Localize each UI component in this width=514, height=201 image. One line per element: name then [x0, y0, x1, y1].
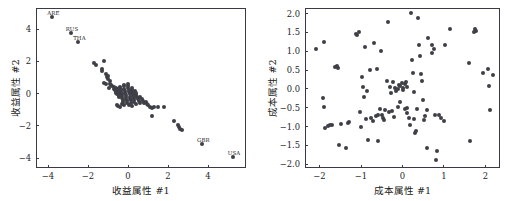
y-tick-mark — [36, 158, 39, 159]
data-point — [411, 71, 415, 75]
data-point — [339, 122, 343, 126]
data-point — [382, 118, 386, 122]
data-point — [386, 20, 390, 24]
x-tick-label: 1 — [441, 172, 446, 180]
x-tick-label: 0 — [400, 172, 405, 180]
x-tick-label: 0 — [125, 172, 130, 180]
data-point — [371, 119, 375, 123]
data-point — [474, 29, 478, 33]
data-point — [107, 86, 111, 90]
x-tick-mark — [208, 165, 209, 168]
x-tick-mark — [88, 165, 89, 168]
x-tick-label: −2 — [313, 172, 325, 180]
point-annotation: USA — [228, 151, 240, 156]
y-tick-label: 0.0 — [257, 85, 300, 93]
y-tick-label: −4 — [0, 154, 31, 162]
data-point — [376, 139, 380, 143]
data-point — [405, 85, 409, 89]
x-tick-label: 4 — [205, 172, 210, 180]
y-tick-mark — [305, 70, 308, 71]
y-tick-label: 4 — [0, 25, 31, 33]
x-tick-mark — [48, 165, 49, 168]
data-point — [468, 139, 472, 143]
y-tick-label: −1.0 — [257, 122, 300, 130]
y-tick-label: −0.5 — [257, 104, 300, 112]
data-point — [385, 79, 389, 83]
x-tick-mark — [485, 165, 486, 168]
data-point — [486, 67, 490, 71]
data-point — [403, 107, 407, 111]
x-tick-mark — [443, 165, 444, 168]
data-point — [364, 117, 368, 121]
y-tick-label: 0.5 — [257, 66, 300, 74]
chart-panel-left: ARERUSTHAGBRUSA 收益属性 #1 收益属性 #2 −4−2024−… — [0, 0, 257, 201]
y-tick-label: −2 — [0, 122, 31, 130]
y-tick-label: 2.0 — [257, 9, 300, 17]
chart-panel-right: 成本属性 #1 成本属性 #2 −2−1012−2.0−1.5−1.0−0.50… — [257, 0, 514, 201]
data-point — [430, 43, 434, 47]
data-point — [422, 118, 426, 122]
x-tick-label: −1 — [355, 172, 367, 180]
data-point — [417, 43, 421, 47]
data-point — [360, 75, 364, 79]
data-point — [122, 103, 126, 107]
y-tick-mark — [305, 164, 308, 165]
y-tick-label: 0 — [0, 89, 31, 97]
data-point — [94, 63, 98, 67]
point-annotation: RUS — [66, 26, 79, 31]
x-tick-mark — [402, 165, 403, 168]
data-point — [425, 108, 429, 112]
data-point — [418, 54, 422, 58]
data-point — [180, 128, 184, 132]
data-point — [378, 107, 382, 111]
point-annotation: THA — [73, 35, 86, 40]
data-point — [415, 107, 419, 111]
point-annotation: GBR — [197, 138, 210, 143]
data-point — [390, 109, 394, 113]
data-point — [430, 51, 434, 55]
data-point — [330, 123, 334, 127]
plot-area-left — [36, 8, 246, 168]
y-tick-mark — [305, 32, 308, 33]
y-tick-label: −1.5 — [257, 141, 300, 149]
data-point — [363, 45, 367, 49]
y-axis-label-left: 收益属性 #2 — [11, 59, 21, 116]
x-axis-label-right: 成本属性 #1 — [374, 186, 431, 196]
data-point — [358, 110, 362, 114]
x-tick-mark — [168, 165, 169, 168]
data-point — [408, 123, 412, 127]
x-tick-label: −4 — [42, 172, 54, 180]
x-tick-label: −2 — [82, 172, 94, 180]
y-tick-mark — [305, 126, 308, 127]
y-tick-mark — [36, 93, 39, 94]
x-tick-mark — [128, 165, 129, 168]
data-point — [102, 59, 106, 63]
data-point — [130, 104, 134, 108]
x-tick-mark — [361, 165, 362, 168]
figure-container: ARERUSTHAGBRUSA 收益属性 #1 收益属性 #2 −4−2024−… — [0, 0, 514, 201]
y-tick-mark — [36, 61, 39, 62]
data-point — [162, 105, 166, 109]
data-point — [409, 11, 413, 15]
data-point — [491, 73, 495, 77]
data-point — [322, 105, 326, 109]
x-tick-label: 2 — [165, 172, 170, 180]
y-tick-mark — [305, 13, 308, 14]
data-point — [322, 40, 326, 44]
y-tick-mark — [305, 145, 308, 146]
x-tick-mark — [319, 165, 320, 168]
data-point — [434, 158, 438, 162]
y-tick-mark — [36, 125, 39, 126]
data-point — [443, 43, 447, 47]
data-point — [156, 105, 160, 109]
y-tick-label: −2.0 — [257, 160, 300, 168]
point-annotation: ARE — [47, 11, 59, 16]
data-point — [414, 129, 418, 133]
y-tick-label: 1.0 — [257, 47, 300, 55]
y-tick-mark — [305, 51, 308, 52]
data-point — [487, 84, 491, 88]
data-point — [404, 80, 408, 84]
data-point — [488, 108, 492, 112]
data-point — [419, 72, 423, 76]
y-tick-mark — [36, 29, 39, 30]
